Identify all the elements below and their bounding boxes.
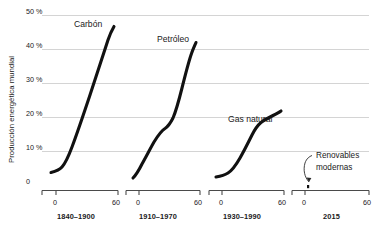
y-axis-title: Producción energética mundial — [7, 56, 16, 163]
panel-2-tick-label-0: 0 — [136, 198, 140, 207]
y-tick-label-50: 50 % — [26, 7, 43, 16]
panel-4-tick-label-60: 60 — [363, 198, 371, 207]
panel-4-tick-label-0: 0 — [302, 198, 306, 207]
y-tick-label-0: 0 — [26, 177, 30, 186]
panel-1-label: 1840–1900 — [57, 212, 95, 221]
annotation-renovables-line1: Renovables — [316, 151, 359, 160]
panel-1-tick-label-60: 60 — [112, 198, 120, 207]
energy-transition-small-multiples-chart: 50 % 40 % 30 % 20 % 10 % 0 Producción en… — [0, 0, 376, 232]
series-label-petroleo: Petróleo — [157, 34, 189, 44]
panel-3-tick-label-0: 0 — [219, 198, 223, 207]
chart-container: 50 % 40 % 30 % 20 % 10 % 0 Producción en… — [0, 0, 376, 232]
panel-1-tick-label-0: 0 — [53, 198, 57, 207]
series-label-carbon: Carbón — [74, 19, 102, 29]
series-label-gas-natural: Gas natural — [228, 114, 273, 124]
y-tick-label-10: 10 % — [26, 143, 43, 152]
panel-2-label: 1910–1970 — [139, 212, 177, 221]
panel-3-label: 1930–1990 — [223, 212, 261, 221]
panel-3-tick-label-60: 60 — [278, 198, 286, 207]
series-marker-renovables — [307, 185, 309, 188]
annotation-renovables-line2: modernas — [316, 163, 352, 172]
y-tick-label-40: 40 % — [26, 41, 43, 50]
panel-2-tick-label-60: 60 — [194, 198, 202, 207]
panel-4-label: 2015 — [323, 212, 340, 221]
y-tick-label-20: 20 % — [26, 109, 43, 118]
y-tick-label-30: 30 % — [26, 75, 43, 84]
